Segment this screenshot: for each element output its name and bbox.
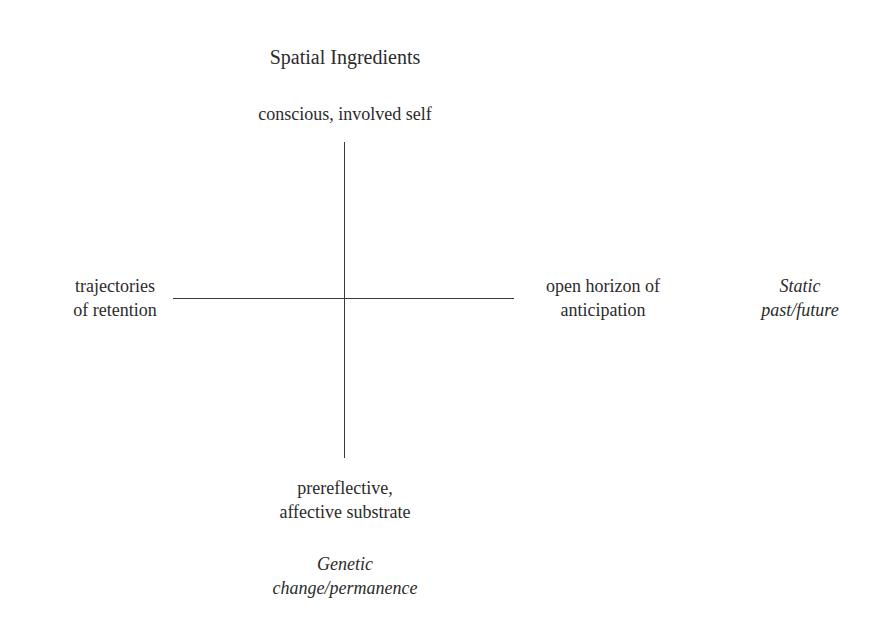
bottom-axis-label: prereflective, affective substrate (245, 476, 445, 524)
left-axis-label: trajectories of retention (35, 274, 195, 322)
bottom-axis-label-line2: affective substrate (245, 500, 445, 524)
left-axis-label-line1: trajectories (35, 274, 195, 298)
vertical-dimension-line2: change/permanence (235, 576, 455, 600)
vertical-dimension-line1: Genetic (235, 552, 455, 576)
vertical-axis (344, 142, 345, 458)
horizontal-axis (173, 298, 514, 299)
diagram-title: Spatial Ingredients (245, 45, 445, 69)
bottom-axis-label-line1: prereflective, (245, 476, 445, 500)
top-axis-label: conscious, involved self (225, 102, 465, 126)
right-axis-label-line1: open horizon of (523, 274, 683, 298)
vertical-dimension-label: Genetic change/permanence (235, 552, 455, 600)
left-axis-label-line2: of retention (35, 298, 195, 322)
right-axis-label: open horizon of anticipation (523, 274, 683, 322)
horizontal-dimension-line1: Static (740, 274, 860, 298)
horizontal-dimension-line2: past/future (740, 298, 860, 322)
horizontal-dimension-label: Static past/future (740, 274, 860, 322)
right-axis-label-line2: anticipation (523, 298, 683, 322)
